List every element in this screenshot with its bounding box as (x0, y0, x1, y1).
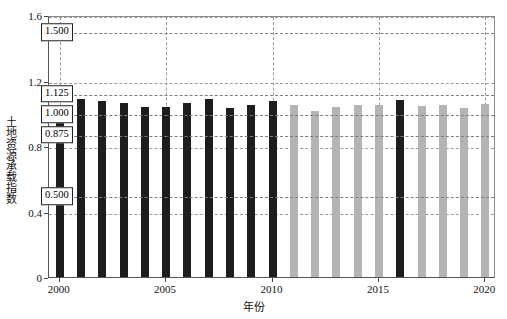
bar-2007 (205, 99, 213, 277)
reference-line-1.000 (49, 115, 494, 116)
reference-line-1.500 (49, 33, 494, 34)
land-resource-carrying-index-chart: 土地资源承载指数 00.40.81.21.6200020052010201520… (0, 0, 507, 319)
bar-2002 (98, 101, 106, 277)
x-axis-title: 年份 (0, 298, 507, 314)
y-tick-label: 0.8 (8, 141, 42, 153)
reference-label-0.875: 0.875 (41, 126, 73, 144)
plot-inner (49, 17, 494, 277)
x-tick-label: 2005 (154, 283, 176, 295)
bar-2015 (375, 105, 383, 277)
bar-2004 (141, 107, 149, 277)
y-tick-label: 1.6 (8, 10, 42, 22)
x-tick-label: 2020 (473, 283, 495, 295)
bar-2017 (418, 106, 426, 277)
bar-2005 (162, 107, 170, 277)
bar-2019 (460, 108, 468, 277)
bar-2014 (354, 105, 362, 277)
x-tick-mark (59, 278, 60, 282)
x-tick-label: 2000 (48, 283, 70, 295)
x-tick-mark (165, 278, 166, 282)
reference-line-1.125 (49, 95, 494, 96)
y-tick-mark (44, 213, 48, 214)
bar-2003 (120, 103, 128, 277)
y-tick-label: 1.2 (8, 76, 42, 88)
bar-2010 (269, 101, 277, 277)
bar-2011 (290, 105, 298, 277)
bar-2009 (247, 105, 255, 277)
cut-off-caption (150, 0, 410, 6)
x-tick-mark (272, 278, 273, 282)
y-tick-mark (44, 16, 48, 17)
x-tick-mark (378, 278, 379, 282)
gridline-horizontal (49, 17, 494, 18)
bar-2013 (332, 107, 340, 277)
reference-label-0.500: 0.500 (41, 187, 73, 205)
y-axis-title: 土地资源承载指数 (2, 116, 18, 204)
x-tick-label: 2010 (261, 283, 283, 295)
y-tick-label: 0 (8, 272, 42, 284)
y-tick-mark (44, 82, 48, 83)
bar-2020 (481, 104, 489, 277)
bar-2016 (396, 100, 404, 277)
y-tick-label: 0.4 (8, 207, 42, 219)
plot-area (48, 16, 495, 278)
bar-2006 (183, 103, 191, 277)
x-tick-label: 2015 (367, 283, 389, 295)
y-tick-mark (44, 147, 48, 148)
reference-line-0.500 (49, 197, 494, 198)
gridline-horizontal (49, 83, 494, 84)
reference-label-1.500: 1.500 (41, 24, 73, 42)
y-tick-mark (44, 278, 48, 279)
bar-2008 (226, 108, 234, 277)
reference-label-1.000: 1.000 (41, 106, 73, 124)
bar-2018 (439, 105, 447, 277)
x-tick-mark (484, 278, 485, 282)
bar-2001 (77, 99, 85, 277)
reference-line-0.875 (49, 136, 494, 137)
reference-label-1.125: 1.125 (41, 85, 73, 103)
